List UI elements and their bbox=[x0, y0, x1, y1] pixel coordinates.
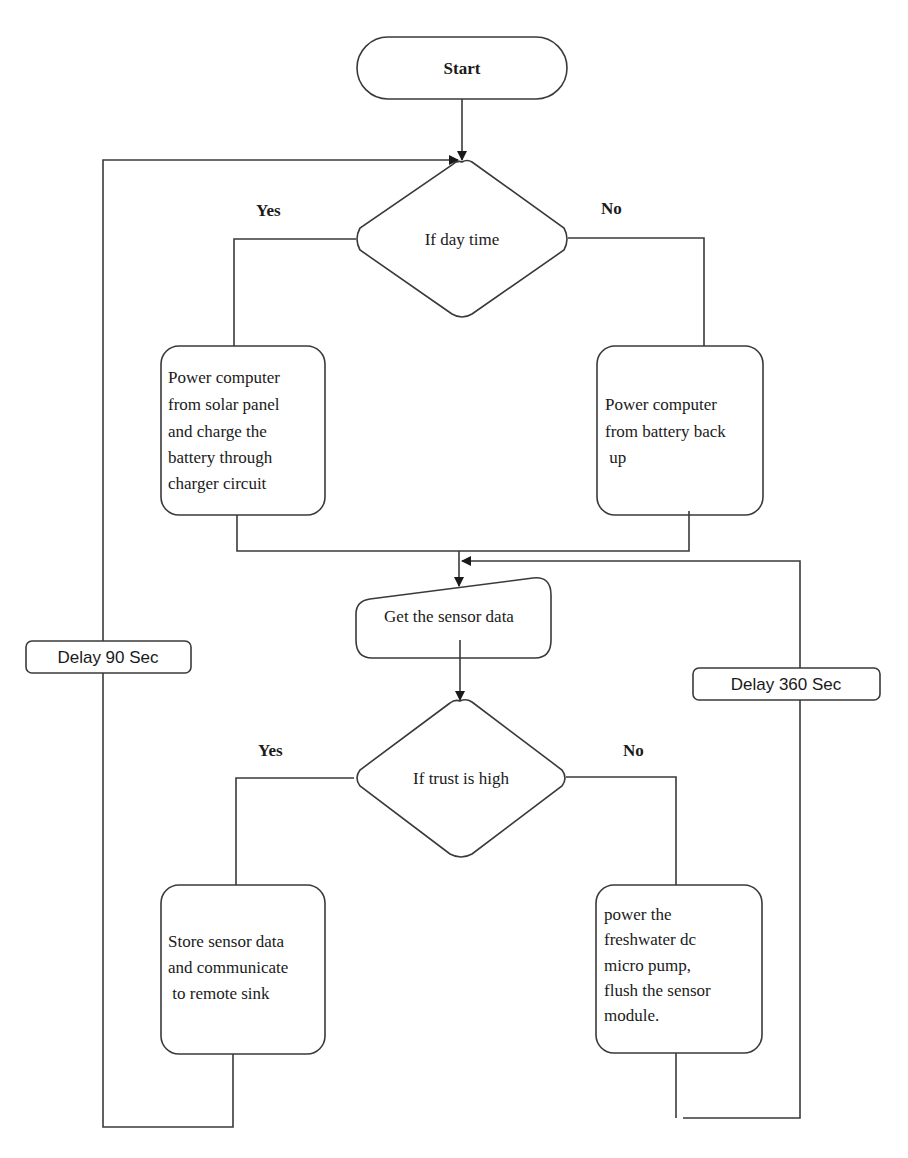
connector-no-trust bbox=[566, 777, 676, 885]
decision-trust-label: If trust is high bbox=[413, 769, 509, 788]
no-label-trust: No bbox=[623, 741, 644, 760]
delay-360-label: Delay 360 Sec bbox=[731, 675, 842, 694]
delay-90-box: Delay 90 Sec bbox=[26, 641, 191, 673]
connector-yes-day bbox=[234, 239, 356, 346]
io-sensor-label: Get the sensor data bbox=[384, 607, 514, 626]
yes-label-trust: Yes bbox=[258, 741, 283, 760]
decision-trust-high: If trust is high bbox=[357, 700, 565, 857]
decision-day-time: If day time bbox=[357, 161, 567, 318]
start-terminator: Start bbox=[357, 37, 567, 99]
delay-90-label: Delay 90 Sec bbox=[57, 648, 159, 667]
flowchart-canvas: Start If day time Yes No Power computer … bbox=[0, 0, 908, 1158]
start-label: Start bbox=[444, 59, 481, 78]
yes-label-day: Yes bbox=[256, 201, 281, 220]
process-flush-sensor: power the freshwater dc micro pump, flus… bbox=[596, 885, 762, 1053]
decision-day-label: If day time bbox=[425, 230, 500, 249]
delay-360-box: Delay 360 Sec bbox=[693, 668, 880, 700]
connector-merge-power bbox=[237, 511, 689, 551]
process-store-communicate: Store sensor data and communicate to rem… bbox=[161, 885, 325, 1054]
connector-yes-trust bbox=[236, 778, 354, 885]
process-solar-power: Power computer from solar panel and char… bbox=[161, 346, 325, 515]
connector-no-day bbox=[568, 238, 704, 346]
no-label-day: No bbox=[601, 199, 622, 218]
process-battery-power: Power computer from battery back up bbox=[597, 346, 763, 515]
io-get-sensor-data: Get the sensor data bbox=[356, 578, 551, 658]
